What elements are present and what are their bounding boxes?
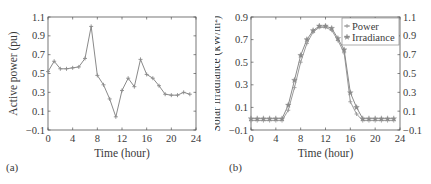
y-right-tick-label: 0.5 [403, 68, 416, 79]
y-tick-label: 0.3 [32, 87, 45, 98]
plus-marker [188, 92, 192, 96]
x-tick-label: 8 [298, 133, 303, 144]
y-right-tick-label: 0.1 [403, 106, 416, 117]
x-tick-label: 16 [345, 133, 356, 144]
x-tick-label: 12 [320, 133, 331, 144]
series-active-power [46, 24, 192, 118]
x-tick-label: 0 [45, 133, 50, 144]
plus-marker [348, 100, 352, 104]
y-right-tick-label: 0.7 [403, 49, 416, 60]
x-tick-label: 20 [370, 133, 381, 144]
legend: PowerIrradiance [342, 18, 399, 45]
x-tick-label: 12 [117, 133, 128, 144]
y-tick-label: 0.9 [235, 12, 248, 23]
panel-label-b: (b) [229, 161, 242, 173]
y-axis-label: Active power (pu) [7, 31, 20, 115]
plus-marker [89, 24, 93, 28]
x-tick-label: 4 [70, 133, 76, 144]
x-tick-label: 20 [166, 133, 177, 144]
plus-marker [169, 93, 173, 97]
legend-entry-label: Irradiance [352, 32, 395, 43]
plus-marker [108, 97, 112, 101]
star-marker [347, 90, 353, 95]
y-tick-label: −0.1 [26, 125, 45, 136]
x-tick-label: 8 [95, 133, 100, 144]
plus-marker [120, 88, 124, 92]
y-tick-label: 1.1 [32, 12, 45, 23]
y-right-tick-label: 0.9 [403, 30, 416, 41]
x-axis-label: Time (hour) [94, 147, 150, 160]
y-tick-label: 0.5 [32, 68, 45, 79]
plus-marker [176, 93, 180, 97]
panel-label-a: (a) [6, 161, 18, 173]
legend-entry-label: Power [352, 21, 379, 32]
y-tick-label: 0.1 [235, 102, 248, 113]
x-tick-label: 0 [248, 133, 253, 144]
axes-frame [48, 17, 196, 130]
y-right-tick-label: −0.1 [403, 125, 422, 136]
figure: 04812162024−0.10.10.30.50.70.91.1Time (h… [0, 0, 431, 184]
y-right-tick-label: 1.1 [403, 12, 416, 23]
y-tick-label: 0.5 [235, 57, 248, 68]
y-tick-label: 0.7 [235, 34, 248, 45]
plus-marker [65, 67, 69, 71]
chart-solar-irradiance: 04812162024−0.10.10.30.50.70.9−0.10.10.3… [215, 0, 431, 184]
x-tick-label: 4 [273, 133, 279, 144]
y-tick-label: 0.7 [32, 49, 45, 60]
x-tick-label: 24 [191, 133, 202, 144]
y-tick-label: 0.3 [235, 79, 248, 90]
x-axis-label: Time (hour) [298, 147, 354, 160]
y-tick-label: 0.1 [32, 106, 45, 117]
y-tick-label: 0.9 [32, 30, 45, 41]
y-tick-label: −0.1 [229, 125, 248, 136]
x-tick-label: 16 [141, 133, 152, 144]
plus-marker [182, 90, 186, 94]
y-right-tick-label: 0.3 [403, 87, 416, 98]
plus-marker [139, 57, 143, 61]
chart-active-power: 04812162024−0.10.10.30.50.70.91.1Time (h… [0, 0, 215, 184]
y-axis-label: Solar irradiance (kW/m²) [215, 15, 223, 131]
plus-marker [114, 115, 118, 119]
plus-marker [71, 66, 75, 70]
